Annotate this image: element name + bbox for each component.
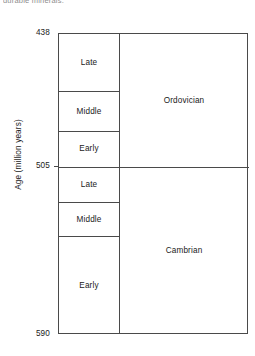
tick-label: 505: [14, 161, 50, 170]
tick-label: 438: [14, 28, 50, 37]
epoch-cell: Late: [59, 167, 119, 203]
epoch-cell: Early: [59, 131, 119, 167]
epoch-cell: Early: [59, 236, 119, 335]
epoch-cell: Middle: [59, 202, 119, 236]
caption-fragment: durable minerals.: [3, 0, 153, 4]
epoch-cell: Middle: [59, 91, 119, 131]
tick-label: 590: [14, 329, 50, 338]
period-cell: Cambrian: [119, 167, 249, 335]
y-axis-title: Age (million years): [14, 90, 23, 220]
period-cell: Ordovician: [119, 34, 249, 167]
epoch-cell: Late: [59, 34, 119, 91]
stratigraphic-column: LateMiddleEarlyLateMiddleEarly Ordovicia…: [58, 33, 248, 334]
